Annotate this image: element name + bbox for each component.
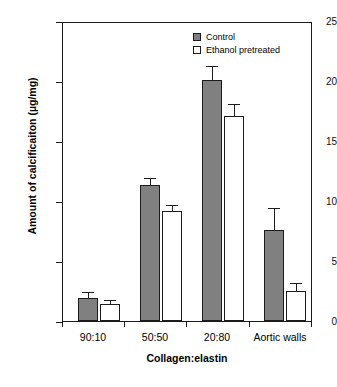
errorbar-control-90-10 bbox=[88, 293, 89, 298]
y-tick-label-10: 10 bbox=[313, 197, 337, 207]
errorbar-ethanol-20-80 bbox=[234, 105, 235, 116]
bar-control-20-80 bbox=[202, 80, 222, 321]
x-axis-title: Collagen:elastin bbox=[62, 352, 312, 364]
legend-label-ethanol-pretreated: Ethanol pretreated bbox=[206, 45, 280, 55]
x-tick-mark-0 bbox=[62, 322, 63, 327]
y-tick-label-20: 20 bbox=[313, 77, 337, 87]
x-tick-mark-1 bbox=[124, 322, 125, 327]
x-tick-label-aortic-walls: Aortic walls bbox=[235, 331, 325, 343]
y-tick-label-15: 15 bbox=[313, 137, 337, 147]
bar-control-aortic-walls bbox=[264, 230, 284, 321]
errorbar-control-aortic-walls bbox=[274, 209, 275, 229]
errorcap-ethanol-aortic-walls bbox=[290, 283, 302, 284]
bar-ethanol-20-80 bbox=[224, 116, 244, 321]
legend-swatch-ethanol-icon bbox=[193, 46, 201, 54]
errorbar-ethanol-90-10 bbox=[110, 301, 111, 305]
legend-item-ethanol-pretreated: Ethanol pretreated bbox=[193, 43, 305, 56]
bar-group-50-50 bbox=[139, 23, 187, 321]
x-tick-mark-2 bbox=[186, 322, 187, 327]
errorbar-control-50-50 bbox=[150, 179, 151, 185]
errorcap-ethanol-50-50 bbox=[166, 205, 178, 206]
y-tick-label-5: 5 bbox=[313, 257, 337, 267]
y-tick-label-25: 25 bbox=[313, 17, 337, 27]
bars-layer bbox=[63, 23, 311, 321]
y-axis-title: Amount of calcificaiton (µg/mg) bbox=[26, 36, 38, 276]
bar-group-20-80 bbox=[201, 23, 249, 321]
errorcap-ethanol-90-10 bbox=[104, 300, 116, 301]
bar-ethanol-90-10 bbox=[100, 304, 120, 321]
errorcap-control-90-10 bbox=[82, 292, 94, 293]
bar-control-50-50 bbox=[140, 185, 160, 321]
bar-group-aortic-walls bbox=[263, 23, 311, 321]
bar-ethanol-50-50 bbox=[162, 211, 182, 321]
legend-item-control: Control bbox=[193, 30, 305, 43]
errorbar-ethanol-50-50 bbox=[172, 206, 173, 211]
errorcap-control-50-50 bbox=[144, 178, 156, 179]
bar-control-90-10 bbox=[78, 298, 98, 321]
errorcap-control-20-80 bbox=[206, 66, 218, 67]
y-tick-label-0: 0 bbox=[313, 317, 337, 327]
errorbar-ethanol-aortic-walls bbox=[296, 284, 297, 291]
legend: Control Ethanol pretreated bbox=[193, 30, 305, 56]
legend-swatch-control-icon bbox=[193, 33, 201, 41]
bar-group-90-10 bbox=[77, 23, 125, 321]
legend-label-control: Control bbox=[206, 32, 235, 42]
errorcap-ethanol-20-80 bbox=[228, 104, 240, 105]
x-tick-mark-4 bbox=[311, 322, 312, 327]
x-tick-mark-3 bbox=[249, 322, 250, 327]
bar-ethanol-aortic-walls bbox=[286, 291, 306, 321]
errorbar-control-20-80 bbox=[212, 67, 213, 80]
errorcap-control-aortic-walls bbox=[268, 208, 280, 209]
calcification-bar-chart: 25 20 15 10 5 0 Amount of calcificaiton … bbox=[0, 0, 337, 387]
